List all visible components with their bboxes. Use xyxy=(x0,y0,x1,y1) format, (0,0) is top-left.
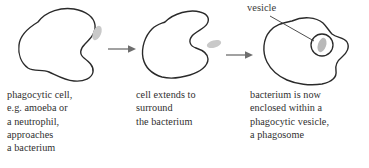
phagocytic-cell-outline-stage2 xyxy=(142,11,208,78)
caption-stage-3: bacterium is now enclosed within a phago… xyxy=(250,88,368,141)
stage-2-group xyxy=(142,11,222,78)
phagocytosis-diagram: vesicle phagocytic cell, e.g. amoeba or … xyxy=(0,0,369,168)
phagocytic-cell-outline-stage3 xyxy=(264,18,348,85)
arrow-stage2-to-stage3 xyxy=(226,51,253,58)
arrow-head xyxy=(128,45,136,52)
arrow-stage1-to-stage2 xyxy=(108,45,136,52)
vesicle-label: vesicle xyxy=(247,2,276,13)
phagocytic-cell-outline-stage1 xyxy=(19,9,95,82)
caption-stage-2: cell extends to surround the bacterium xyxy=(136,88,248,128)
caption-stage-1: phagocytic cell, e.g. amoeba or a neutro… xyxy=(7,88,127,154)
stage-1-group xyxy=(19,9,104,82)
bacterium-stage2 xyxy=(206,38,222,49)
arrow-head xyxy=(245,51,253,58)
stage-3-group xyxy=(264,16,348,85)
